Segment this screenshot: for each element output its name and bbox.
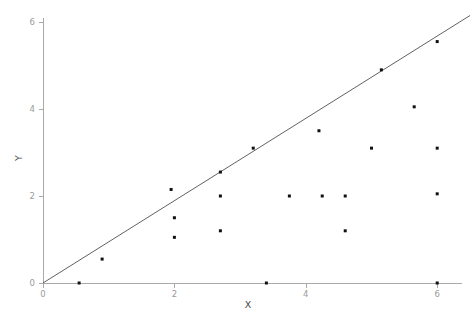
data-point — [436, 40, 439, 43]
data-point — [173, 216, 176, 219]
data-point — [436, 282, 439, 285]
data-point — [219, 195, 222, 198]
data-point — [78, 282, 81, 285]
data-point — [436, 192, 439, 195]
identity-reference-line — [43, 15, 470, 283]
data-point — [219, 229, 222, 232]
y-tick-label: 4 — [30, 104, 35, 114]
x-axis-group: 0246 X — [40, 284, 462, 311]
data-point — [380, 68, 383, 71]
data-point — [321, 195, 324, 198]
y-tick-label: 6 — [30, 17, 35, 27]
plot-canvas: 0246 Y 0246 X — [0, 0, 476, 314]
x-axis-title: X — [245, 299, 252, 310]
data-point — [370, 147, 373, 150]
data-point — [170, 188, 173, 191]
y-axis-ticks: 0246 — [30, 17, 43, 288]
data-point — [413, 105, 416, 108]
data-point — [288, 195, 291, 198]
scatter-plot-figure: 0246 Y 0246 X — [0, 0, 476, 314]
data-point — [252, 147, 255, 150]
x-tick-label: 6 — [434, 289, 439, 299]
y-tick-label: 2 — [30, 191, 35, 201]
data-points-group — [78, 40, 439, 284]
data-point — [173, 236, 176, 239]
x-tick-label: 4 — [303, 289, 308, 299]
y-axis-group: 0246 Y — [13, 17, 44, 288]
data-point — [436, 147, 439, 150]
data-point — [265, 282, 268, 285]
x-axis-ticks: 0246 — [40, 284, 440, 299]
x-tick-label: 0 — [40, 289, 45, 299]
y-axis-title: Y — [13, 155, 24, 162]
data-point — [344, 229, 347, 232]
data-point — [219, 171, 222, 174]
x-tick-label: 2 — [172, 289, 177, 299]
data-point — [344, 195, 347, 198]
data-point — [101, 258, 104, 261]
data-point — [317, 129, 320, 132]
y-tick-label: 0 — [30, 278, 35, 288]
